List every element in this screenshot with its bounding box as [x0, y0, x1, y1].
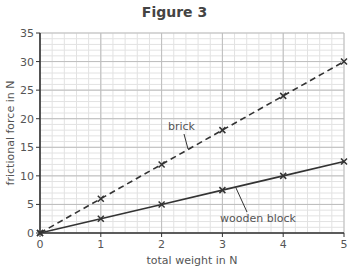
y-tick-label: 20	[20, 113, 34, 126]
x-tick-label: 4	[280, 238, 287, 251]
x-tick-label: 2	[158, 238, 165, 251]
x-tick-label: 1	[97, 238, 104, 251]
y-tick-label: 5	[27, 198, 34, 211]
y-tick-label: 30	[20, 56, 34, 69]
y-tick-label: 10	[20, 170, 34, 183]
line-chart: 01234505101520253035total weight in Nfri…	[0, 0, 349, 275]
series-line-wooden-block	[40, 162, 344, 233]
x-tick-label: 5	[341, 238, 348, 251]
annotation-wooden-block: wooden block	[220, 212, 296, 225]
y-tick-label: 0	[27, 227, 34, 240]
x-axis-label: total weight in N	[147, 254, 238, 267]
x-tick-label: 3	[219, 238, 226, 251]
x-tick-label: 0	[37, 238, 44, 251]
y-tick-label: 15	[20, 141, 34, 154]
y-tick-label: 35	[20, 27, 34, 40]
y-axis-label: frictional force in N	[4, 81, 17, 186]
annotation-brick: brick	[168, 120, 196, 133]
y-tick-label: 25	[20, 84, 34, 97]
annotation-pointer	[236, 188, 247, 212]
